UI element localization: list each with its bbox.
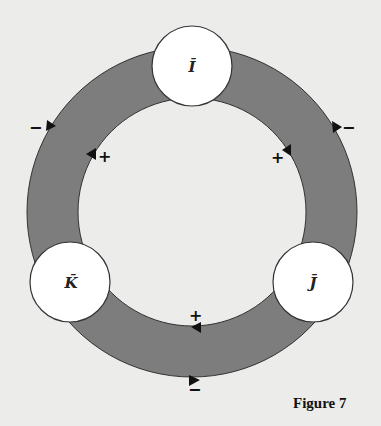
node-K: K̄ [30,242,110,322]
ring-diagram: − + − + + − Ī K̄ J̄ [0,0,381,426]
figure-caption: Figure 7 [293,395,346,412]
node-J: J̄ [273,242,353,322]
sign-right-outer: − [342,118,355,137]
node-I: Ī [152,26,232,106]
sign-right-inner: + [271,148,284,167]
sign-bottom-outer: − [188,380,201,399]
sign-left-outer: − [29,118,42,137]
node-K-label: K̄ [63,273,78,292]
sign-left-inner: + [98,147,111,166]
arrow-right-outer-icon [332,121,342,133]
sign-bottom-inner: + [189,306,202,325]
node-I-label: Ī [187,57,196,76]
